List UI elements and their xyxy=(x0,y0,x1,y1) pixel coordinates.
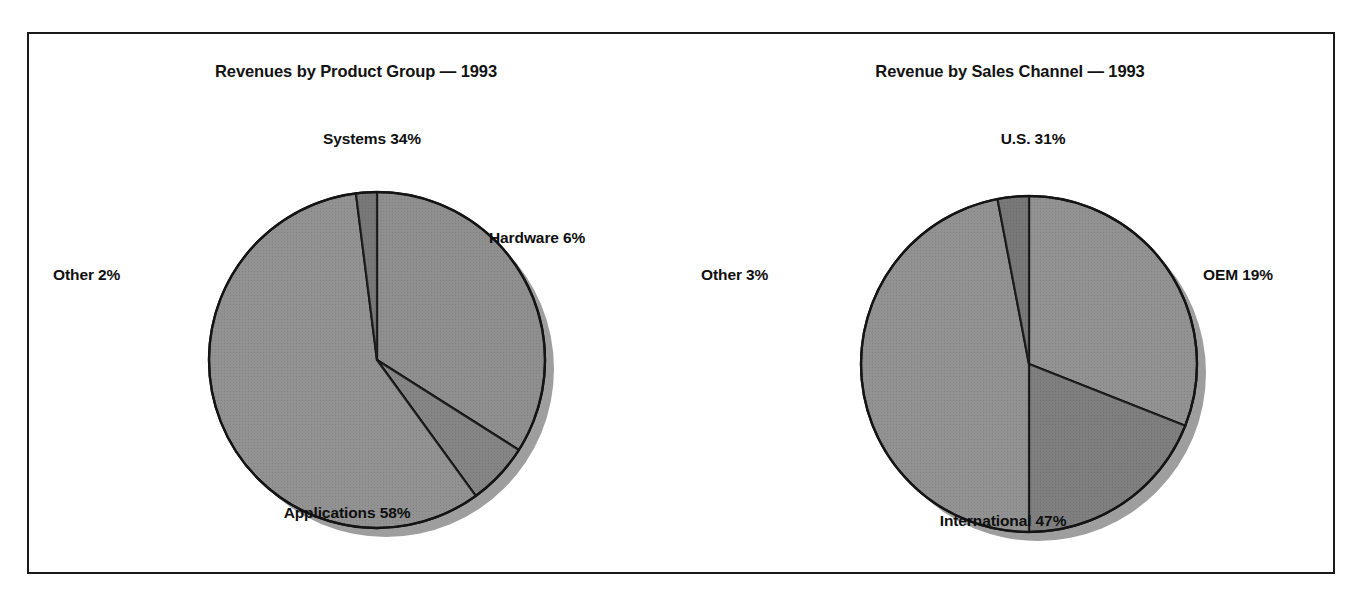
slice-label-us: U.S. 31% xyxy=(883,130,1183,148)
pie-chart-sales-channel xyxy=(683,34,1337,576)
slice-label-other-sales-channel: Other 3% xyxy=(701,266,768,284)
pie-chart-product-group xyxy=(29,34,683,576)
chart-panel-product-group: Revenues by Product Group — 1993 Systems… xyxy=(29,34,683,572)
pie-stage-product-group: Systems 34% Hardware 6% Other 2% Applica… xyxy=(29,34,683,572)
slice-label-oem: OEM 19% xyxy=(1203,266,1273,284)
slice-label-systems: Systems 34% xyxy=(222,130,522,148)
slice-label-hardware: Hardware 6% xyxy=(489,229,585,247)
chart-panel-sales-channel: Revenue by Sales Channel — 1993 U.S. 31%… xyxy=(683,34,1337,572)
slice-label-applications: Applications 58% xyxy=(137,504,557,522)
slice-label-international: International 47% xyxy=(793,512,1213,530)
figure-frame: Revenues by Product Group — 1993 Systems… xyxy=(27,32,1335,574)
pie-slice-texture xyxy=(861,199,1029,532)
slice-label-other-product-group: Other 2% xyxy=(53,266,120,284)
pie-stage-sales-channel: U.S. 31% OEM 19% Other 3% International … xyxy=(683,34,1337,572)
